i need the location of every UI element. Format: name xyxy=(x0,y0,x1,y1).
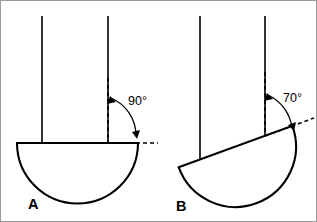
angle-label-a: 90° xyxy=(128,94,147,108)
panel-b: 70° B xyxy=(176,16,314,222)
diagram-svg: 90° A 70° B xyxy=(0,0,317,222)
angle-label-b: 70° xyxy=(283,91,302,105)
panel-letter-a: A xyxy=(28,196,39,212)
figure-container: 90° A 70° B xyxy=(0,0,317,222)
bowl-shape-b xyxy=(179,126,313,222)
panel-a: 90° A xyxy=(17,16,158,212)
bowl-group-b xyxy=(179,126,313,222)
angle-arrowhead-lower-a xyxy=(132,130,140,139)
panel-letter-b: B xyxy=(176,198,186,214)
bowl-shape-a xyxy=(17,143,138,203)
